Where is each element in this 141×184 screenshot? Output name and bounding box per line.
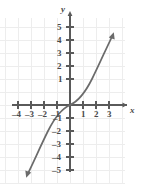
y-tick-label-4: 4 xyxy=(57,36,62,45)
x-axis-label: x xyxy=(130,106,135,115)
y-tick-label-1: 1 xyxy=(58,75,63,84)
x-tick-label-neg3: –3 xyxy=(25,110,34,119)
x-tick-label-2: 2 xyxy=(94,110,99,119)
cubic-function-plot xyxy=(0,0,141,184)
x-tick-label-neg4: –4 xyxy=(12,110,21,119)
x-tick-label-neg2: –2 xyxy=(38,110,47,119)
y-tick-label-neg5: –5 xyxy=(52,166,61,175)
x-tick-label-1: 1 xyxy=(81,110,86,119)
graph-figure: y x –4 –3 –2 –1 1 2 3 5 4 3 2 1 –1 –2 –3… xyxy=(0,0,141,184)
y-tick-label-5: 5 xyxy=(57,23,62,32)
y-axis-label: y xyxy=(61,5,65,14)
y-tick-label-neg2: –2 xyxy=(52,127,61,136)
x-tick-label-3: 3 xyxy=(107,110,112,119)
y-tick-label-neg4: –4 xyxy=(52,153,61,162)
y-tick-label-3: 3 xyxy=(57,49,62,58)
y-tick-label-neg3: –3 xyxy=(52,140,61,149)
y-tick-label-2: 2 xyxy=(57,62,62,71)
y-tick-label-neg1: –1 xyxy=(53,114,62,123)
